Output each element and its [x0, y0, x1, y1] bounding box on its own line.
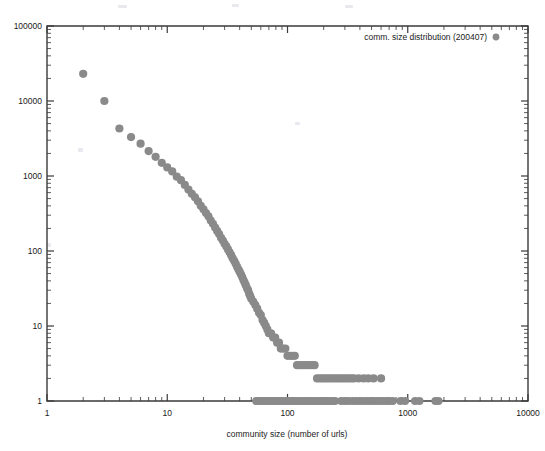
x-tick-label: 1 [45, 408, 50, 418]
scan-artifact [232, 4, 239, 7]
scan-artifact [345, 5, 353, 8]
y-tick-label: 1 [37, 396, 42, 406]
data-point [115, 124, 123, 132]
y-tick-label: 100000 [14, 21, 43, 31]
data-point [79, 70, 87, 78]
data-point [291, 352, 299, 360]
data-point [370, 374, 378, 382]
plot-background [0, 0, 545, 451]
x-tick-label: 10000 [516, 408, 540, 418]
x-tick-label: 100 [280, 408, 294, 418]
scatter-plot: 110100100010000100000 110100100010000 co… [0, 0, 545, 451]
x-axis-title: community size (number of urls) [227, 429, 348, 439]
data-point [281, 344, 289, 352]
data-point [127, 133, 135, 141]
scan-artifact [118, 5, 127, 8]
data-point [401, 397, 409, 405]
data-point [310, 361, 318, 369]
data-point [434, 397, 442, 405]
data-point [377, 374, 385, 382]
data-point [415, 397, 423, 405]
y-tick-label: 1000 [23, 171, 42, 181]
x-tick-label: 1000 [398, 408, 417, 418]
data-point [389, 397, 397, 405]
scan-artifact [295, 122, 300, 125]
data-point [100, 97, 108, 105]
y-tick-label: 100 [28, 246, 42, 256]
y-tick-label: 10000 [18, 96, 42, 106]
legend-dot-icon [493, 34, 500, 41]
legend-label: comm. size distribution (200407) [364, 32, 487, 42]
data-point [145, 147, 153, 155]
scan-artifact [78, 148, 83, 152]
data-point [152, 153, 160, 161]
x-tick-label: 10 [163, 408, 173, 418]
chart-figure: 110100100010000100000 110100100010000 co… [0, 0, 545, 451]
data-point [136, 140, 144, 148]
y-tick-label: 10 [33, 321, 43, 331]
